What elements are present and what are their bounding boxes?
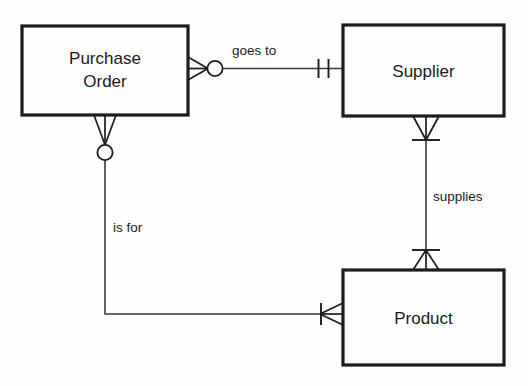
relationship-supplies[interactable]: supplies — [412, 116, 483, 270]
entity-purchase-order[interactable]: Purchase Order — [22, 26, 188, 115]
diagram-svg: goes to supplies — [0, 0, 528, 386]
entity-supplier-label: Supplier — [392, 62, 455, 81]
is-for-line — [105, 160, 320, 314]
relationship-label-is-for: is for — [113, 220, 143, 235]
crowsfoot-is-for-product — [320, 303, 343, 325]
entity-purchase-order-label-line2: Order — [83, 72, 127, 91]
er-diagram-canvas: goes to supplies — [0, 0, 528, 386]
cardinality-circle-is-for — [97, 145, 112, 160]
entity-product-label: Product — [394, 309, 453, 328]
entity-supplier[interactable]: Supplier — [343, 25, 504, 116]
cardinality-circle-goes-to — [207, 61, 222, 76]
crowsfoot-is-for-po — [94, 115, 116, 145]
entity-purchase-order-box — [22, 26, 188, 115]
relationship-label-goes-to: goes to — [232, 43, 276, 58]
relationship-label-supplies: supplies — [433, 189, 483, 204]
relationship-goes-to[interactable]: goes to — [188, 43, 343, 80]
relationship-is-for[interactable]: is for — [94, 115, 343, 325]
entity-product[interactable]: Product — [343, 270, 504, 365]
entity-purchase-order-label-line1: Purchase — [69, 49, 141, 68]
crowsfoot-supplies-supplier — [413, 116, 439, 140]
crowsfoot-supplies-product — [413, 250, 439, 270]
crowsfoot-goes-to-po — [188, 57, 208, 80]
